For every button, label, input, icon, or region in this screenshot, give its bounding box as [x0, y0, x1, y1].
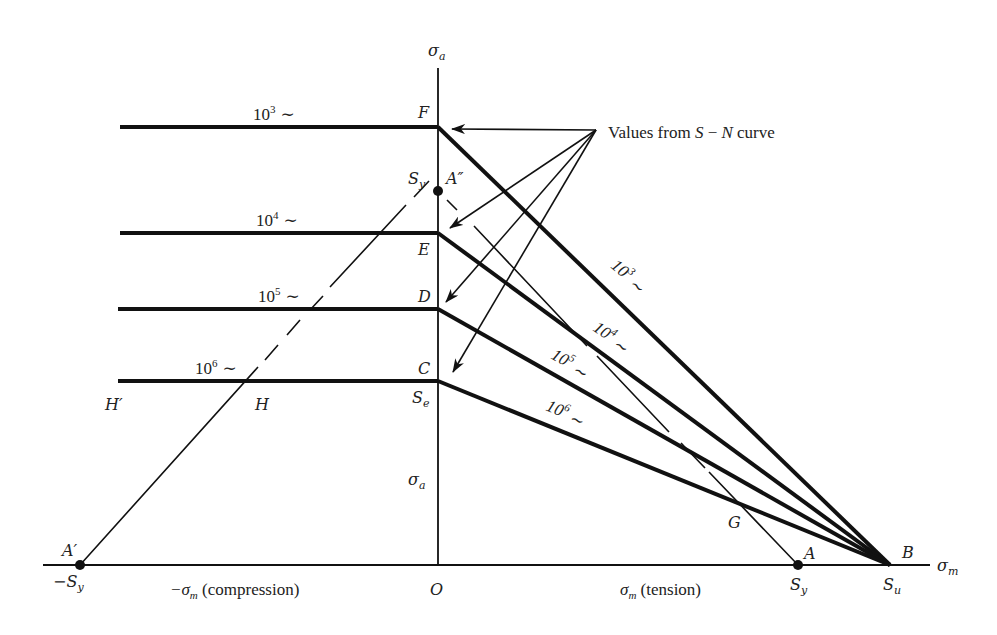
subscript: y: [800, 584, 808, 597]
life-label-1e5-horizontal: 105∼: [258, 285, 300, 306]
subscript: a: [419, 479, 426, 492]
subscript: a: [439, 50, 446, 63]
label-C: C: [418, 359, 430, 378]
life-label-1e3-sloped: 103∼: [606, 254, 653, 299]
tension-text: (tension): [636, 580, 701, 599]
subscript: e: [423, 397, 430, 410]
compression-label: −σm (compression): [170, 580, 299, 601]
point-A-prime: [75, 560, 85, 570]
label-D: D: [417, 287, 431, 306]
label-A-double-prime: A″: [444, 169, 464, 188]
life-label-1e5-sloped: 105∼: [547, 343, 594, 384]
label-H: H: [254, 395, 270, 414]
exponent: 4: [273, 209, 279, 221]
tilde: ∼: [286, 287, 300, 306]
tilde: ∼: [626, 275, 649, 299]
tension-label: σm (tension): [620, 580, 701, 601]
label-G: G: [728, 513, 741, 532]
label-A: A: [802, 544, 816, 563]
label-A-prime: A′: [60, 541, 78, 560]
tilde: ∼: [567, 409, 587, 432]
label-neg-Sy: −Sy: [53, 572, 84, 594]
subscript: m: [190, 589, 198, 601]
base: 10: [258, 287, 275, 306]
label-Sy-top: Sy: [408, 169, 426, 191]
life-line-1e6-sloped: [438, 381, 890, 565]
origin-label: O: [430, 580, 443, 599]
label-Sy-right: Sy: [790, 575, 808, 597]
subscript: m: [948, 565, 958, 578]
compression-sigma: −σ: [170, 580, 190, 599]
tilde: ∼: [610, 335, 632, 359]
base: 10: [256, 211, 273, 230]
horizontal-axis-label: σm: [937, 556, 958, 578]
exponent: 6: [212, 357, 218, 369]
life-label-1e4-horizontal: 104∼: [256, 209, 298, 230]
label-B: B: [901, 543, 914, 562]
exponent: 3: [270, 103, 276, 115]
annotation-suffix: curve: [733, 123, 775, 142]
annotation-dash: −: [703, 123, 721, 142]
label-Su: Su: [883, 575, 901, 597]
label-H-prime: H′: [104, 395, 123, 414]
arrow-to-F: [452, 129, 596, 130]
subscript: u: [894, 584, 901, 597]
label-E: E: [417, 240, 430, 259]
exponent: 5: [275, 285, 281, 297]
subscript: y: [418, 178, 426, 191]
tilde: ∼: [284, 211, 298, 230]
life-label-1e3-horizontal: 103∼: [253, 103, 295, 124]
tilde: ∼: [223, 359, 237, 378]
fatigue-diagram: Values from S − N curve σa σm O −σm (com…: [0, 0, 997, 635]
point-A-double-prime: [433, 186, 443, 196]
tilde: ∼: [570, 360, 592, 384]
tilde: ∼: [281, 105, 295, 124]
annotation-prefix: Values from: [608, 123, 695, 142]
sn-curve-annotation: Values from S − N curve: [608, 123, 775, 142]
yield-line-tension: [447, 200, 798, 565]
base: 10: [195, 359, 212, 378]
yield-line-compression: [80, 181, 429, 565]
neg-S-symbol: −S: [53, 572, 77, 591]
inner-sigma-a-label: σa: [408, 470, 425, 492]
vertical-axis-label: σa: [428, 41, 445, 63]
base: 10: [253, 105, 270, 124]
point-A: [793, 560, 803, 570]
S-symbol: S: [408, 169, 419, 188]
label-Se: Se: [412, 388, 430, 410]
S-symbol: S: [883, 575, 894, 594]
compression-text: (compression): [198, 580, 300, 599]
subscript: y: [76, 581, 84, 594]
subscript: m: [628, 589, 636, 601]
S-symbol: S: [412, 388, 423, 407]
label-F: F: [417, 103, 430, 122]
S-symbol: S: [790, 575, 801, 594]
base: 10: [607, 256, 633, 282]
life-label-1e4-sloped: 104∼: [588, 316, 635, 359]
life-label-1e6-horizontal: 106∼: [195, 357, 237, 378]
